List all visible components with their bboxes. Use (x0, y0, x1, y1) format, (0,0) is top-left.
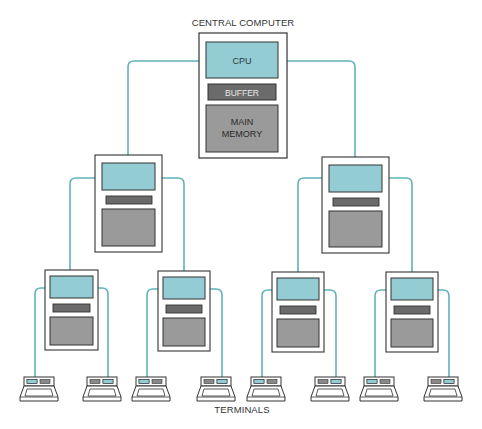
regional-computer-right (322, 157, 389, 253)
regional-cpu (329, 165, 382, 192)
local-memory (50, 317, 93, 345)
regional-buffer (333, 198, 379, 206)
local-computer-2 (158, 271, 210, 351)
buffer-label: BUFFER (225, 88, 259, 98)
local-memory (391, 319, 433, 347)
local-cpu (163, 277, 205, 299)
terminal-7 (360, 377, 398, 401)
local-cpu (391, 278, 433, 300)
local-buffer (166, 305, 202, 313)
local-computer-1 (45, 270, 98, 350)
central-computer-label: CENTRAL COMPUTER (192, 17, 295, 28)
regional-buffer (106, 196, 152, 204)
terminal-4 (197, 377, 235, 401)
regional-cpu (102, 163, 155, 190)
terminals-label: TERMINALS (214, 404, 269, 415)
terminal-1 (20, 377, 58, 401)
terminal-2 (83, 377, 121, 401)
local-buffer (53, 304, 90, 312)
local-memory (277, 319, 319, 347)
regional-computer-left (95, 155, 162, 252)
local-buffer (280, 306, 316, 314)
regional-memory (329, 211, 382, 247)
terminal-3 (132, 377, 170, 401)
terminal-5 (247, 377, 285, 401)
regional-memory (102, 209, 155, 246)
local-buffer (394, 306, 430, 314)
terminal-8 (424, 377, 462, 401)
hierarchical-network-diagram: CENTRAL COMPUTER CPU BUFFER MAIN ME (0, 0, 482, 429)
central-computer: CPU BUFFER MAIN MEMORY (199, 33, 287, 158)
local-memory (163, 318, 205, 346)
local-cpu (50, 276, 93, 298)
cpu-label: CPU (232, 56, 251, 66)
main-memory-label-line1: MAIN (231, 117, 254, 127)
local-computer-3 (272, 272, 324, 352)
terminal-6 (311, 377, 349, 401)
local-cpu (277, 278, 319, 300)
main-memory-label-line2: MEMORY (222, 129, 262, 139)
local-computer-4 (386, 272, 438, 352)
